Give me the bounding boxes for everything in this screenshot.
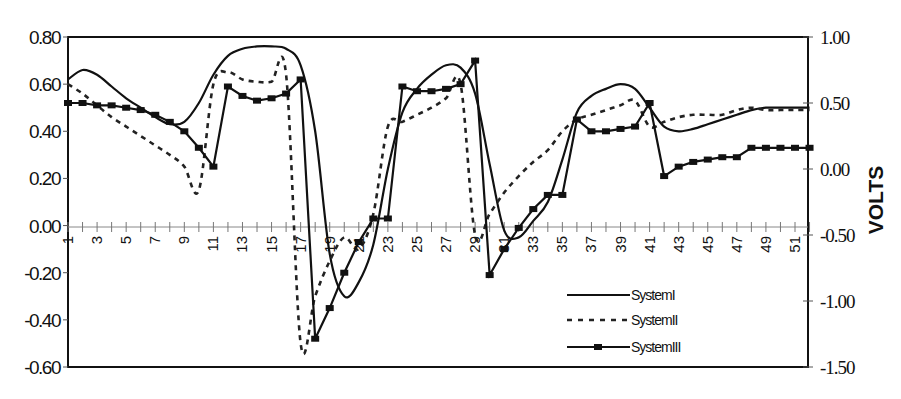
data-marker	[689, 159, 697, 165]
x-tick-label: 15	[263, 236, 280, 253]
legend-label: SystemII	[631, 312, 678, 328]
x-tick-label: 43	[670, 236, 687, 253]
x-tick-label: 45	[699, 236, 716, 253]
x-tick-label: 49	[757, 236, 774, 253]
data-marker	[79, 100, 87, 106]
x-tick-label: 3	[88, 236, 105, 244]
data-marker	[166, 119, 174, 125]
data-marker	[180, 128, 188, 134]
x-tick-label: 27	[437, 236, 454, 253]
data-marker	[704, 157, 712, 163]
data-marker	[238, 93, 246, 99]
y2-tick-label: 0.00	[820, 159, 850, 180]
data-marker	[253, 98, 261, 104]
data-marker	[282, 91, 290, 97]
y2-tick-label: -1.50	[820, 357, 855, 378]
data-marker	[558, 192, 566, 198]
data-marker	[428, 88, 436, 94]
data-marker	[326, 305, 334, 311]
data-marker	[733, 154, 741, 160]
data-marker	[515, 225, 523, 231]
data-marker	[762, 145, 770, 151]
data-marker	[544, 192, 552, 198]
x-tick-label: 9	[175, 236, 192, 244]
y-tick-label: -0.20	[24, 263, 61, 284]
y-tick-label: -0.40	[24, 310, 61, 331]
legend-label: SystemIII	[631, 339, 680, 355]
y2-tick-label: 1.00	[820, 27, 850, 48]
legend-label: SystemI	[631, 287, 675, 303]
x-tick-label: 29	[466, 236, 483, 253]
x-tick-label: 51	[786, 236, 803, 253]
data-marker	[457, 81, 465, 87]
data-marker	[718, 154, 726, 160]
x-tick-label: 1	[59, 236, 76, 244]
x-tick-label: 25	[408, 236, 425, 253]
legend-marker	[594, 344, 602, 350]
data-marker	[617, 126, 625, 132]
y-tick-label: 0.40	[29, 121, 61, 142]
data-marker	[137, 107, 145, 113]
data-marker	[413, 88, 421, 94]
y2-tick-label: -0.50	[820, 225, 855, 246]
data-marker	[122, 105, 130, 111]
data-marker	[791, 145, 799, 151]
data-marker	[355, 239, 363, 245]
x-tick-label: 33	[524, 236, 541, 253]
line-chart: 1357911131517192123252729313335373941434…	[0, 0, 901, 399]
x-tick-label: 47	[728, 236, 745, 253]
data-marker	[587, 128, 595, 134]
data-marker	[398, 84, 406, 90]
data-marker	[340, 270, 348, 276]
data-marker	[151, 112, 159, 118]
data-marker	[384, 216, 392, 222]
data-marker	[108, 102, 116, 108]
data-marker	[442, 86, 450, 92]
data-marker	[209, 164, 217, 170]
x-tick-label: 41	[641, 236, 658, 253]
data-marker	[224, 84, 232, 90]
y-tick-label: 0.60	[29, 74, 61, 95]
data-marker	[195, 145, 203, 151]
x-tick-label: 5	[117, 236, 134, 244]
plot-area	[68, 37, 808, 367]
y-tick-label: 0.00	[29, 216, 61, 237]
y-tick-label: -0.60	[24, 357, 61, 378]
x-tick-label: 13	[233, 236, 250, 253]
data-marker	[500, 246, 508, 252]
x-tick-label: 37	[582, 236, 599, 253]
x-tick-label: 7	[146, 236, 163, 244]
y-tick-label: 0.80	[29, 27, 61, 48]
data-marker	[806, 145, 814, 151]
data-marker	[297, 76, 305, 82]
right-axis-title: VOLTS	[864, 166, 887, 234]
data-marker	[660, 173, 668, 179]
data-marker	[747, 145, 755, 151]
data-marker	[602, 128, 610, 134]
y2-tick-label: -1.00	[820, 291, 855, 312]
data-marker	[646, 100, 654, 106]
data-marker	[486, 272, 494, 278]
data-marker	[64, 100, 72, 106]
y-tick-label: 0.20	[29, 168, 61, 189]
data-marker	[93, 102, 101, 108]
data-marker	[311, 336, 319, 342]
data-marker	[268, 95, 276, 101]
data-marker	[776, 145, 784, 151]
data-marker	[631, 124, 639, 130]
right-y-axis: 1.000.500.00-0.50-1.00-1.50	[803, 27, 855, 378]
data-marker	[471, 58, 479, 64]
data-marker	[529, 206, 537, 212]
data-marker	[369, 216, 377, 222]
x-tick-label: 35	[553, 236, 570, 253]
x-tick-label: 39	[612, 236, 629, 253]
x-tick-label: 23	[379, 236, 396, 253]
data-marker	[675, 164, 683, 170]
y2-tick-label: 0.50	[820, 93, 850, 114]
x-tick-label: 11	[204, 236, 221, 252]
left-y-axis: 0.800.600.400.200.00-0.20-0.40-0.60	[24, 27, 68, 378]
data-marker	[573, 117, 581, 123]
